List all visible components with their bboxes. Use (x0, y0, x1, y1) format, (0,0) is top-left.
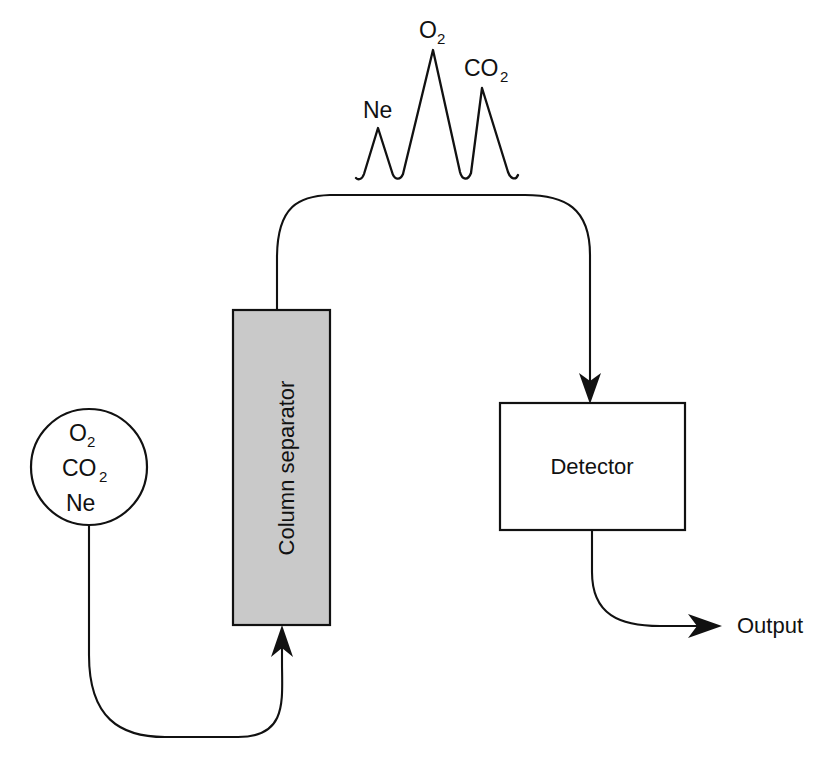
column-separator-label: Column separator (274, 381, 299, 556)
gas-vessel-label-o2-subscript: 2 (87, 433, 95, 450)
peak-label-o2: O 2 (419, 17, 445, 47)
detector[interactable]: Detector (500, 403, 685, 530)
gas-vessel-label-co2-subscript: 2 (99, 468, 107, 485)
diagram-canvas: Ne O 2 CO 2 Column separator Detector (0, 0, 836, 765)
gas-sample-vessel[interactable]: O 2 CO 2 Ne (31, 409, 147, 525)
gas-vessel-label-co2: CO (62, 455, 97, 481)
detector-label: Detector (550, 454, 633, 479)
peak-label-o2-text: O (419, 17, 437, 43)
peak-label-co2-text: CO (464, 55, 499, 81)
peak-label-co2: CO 2 (464, 55, 508, 85)
gas-chromatograph-diagram: Ne O 2 CO 2 Column separator Detector (0, 0, 836, 765)
gas-vessel-label-o2: O (69, 420, 87, 446)
output-label: Output (737, 613, 803, 638)
peak-label-o2-subscript: 2 (437, 30, 445, 47)
peak-label-ne: Ne (363, 97, 392, 123)
peak-label-co2-subscript: 2 (500, 68, 508, 85)
gas-vessel-label-ne: Ne (66, 490, 95, 516)
peak-label-ne-text: Ne (363, 97, 392, 123)
column-separator[interactable]: Column separator (233, 310, 330, 625)
detector-to-output-path (592, 530, 700, 626)
detector-to-output-tube: Output (592, 530, 803, 638)
